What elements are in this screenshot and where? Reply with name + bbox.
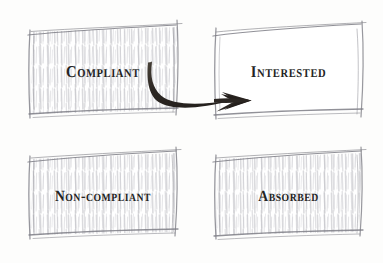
state-label-compliant: Compliant xyxy=(34,62,171,82)
state-box-non-compliant[interactable]: Non-compliant xyxy=(25,148,181,239)
diagram-canvas: Compliant Interested xyxy=(0,0,383,263)
state-box-interested[interactable]: Interested xyxy=(211,22,366,118)
state-label-interested: Interested xyxy=(220,62,356,82)
state-label-non-compliant: Non-compliant xyxy=(34,188,171,206)
state-label-absorbed: Absorbed xyxy=(220,188,356,206)
state-box-absorbed[interactable]: Absorbed xyxy=(211,148,366,239)
state-box-compliant[interactable]: Compliant xyxy=(25,22,181,118)
